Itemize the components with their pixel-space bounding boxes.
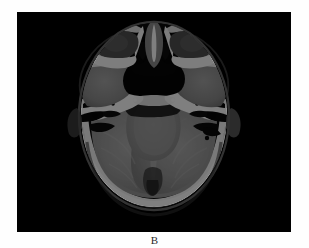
panel-label: B [0,232,309,248]
figure-root: B [0,0,309,248]
ct-image-panel [17,12,291,232]
ct-scan-graphic [17,12,291,232]
